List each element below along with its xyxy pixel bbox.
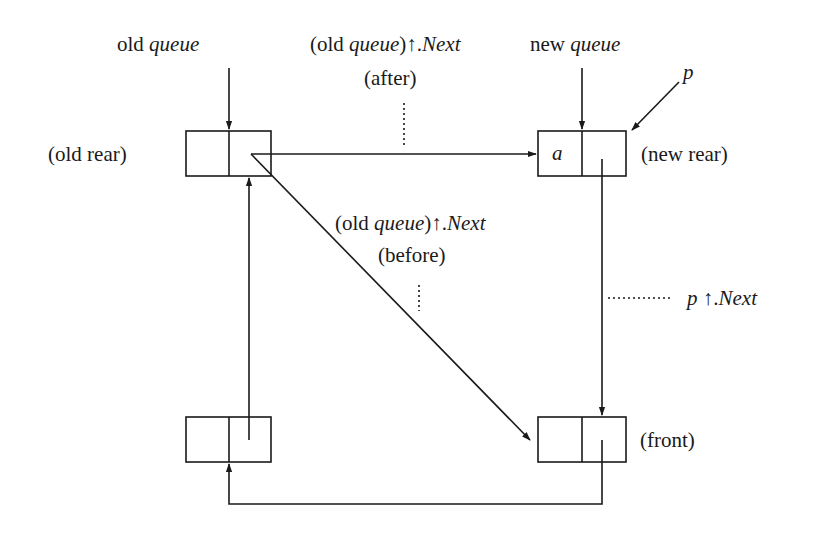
old-queue-label: old queue [117, 32, 199, 56]
node-bottom-left [186, 417, 271, 462]
before-var: queue [374, 211, 424, 235]
old-queue-var: queue [149, 32, 199, 56]
p-next-field: Next [719, 286, 757, 310]
new-queue-prefix: new [530, 32, 565, 56]
annotation-p-next: p ↑.Next [687, 286, 757, 310]
edge-front-to-bottom-left [229, 440, 602, 504]
annotation-after-line1: (old queue)↑.Next [310, 32, 460, 56]
after-arrow: ↑. [406, 32, 422, 56]
annotation-after-note: (after) [364, 66, 416, 90]
p-pointer-label: p [683, 60, 694, 84]
front-label: (front) [640, 428, 695, 452]
old-rear-label: (old rear) [48, 142, 127, 166]
before-arrow: ↑. [431, 211, 447, 235]
after-var: queue [349, 32, 399, 56]
annotation-before-line1: (old queue)↑.Next [335, 211, 485, 235]
edge-old-rear-to-front [251, 154, 530, 440]
p-pointer-arrow [632, 82, 679, 130]
p-next-arrow: ↑. [698, 286, 719, 310]
annotation-before-note: (before) [378, 243, 446, 267]
new-queue-var: queue [570, 32, 620, 56]
node-front [538, 417, 626, 462]
after-open: (old [310, 32, 349, 56]
before-field: Next [447, 211, 485, 235]
after-field: Next [422, 32, 460, 56]
new-rear-value: a [552, 141, 572, 165]
old-queue-prefix: old [117, 32, 144, 56]
new-queue-label: new queue [530, 32, 620, 56]
new-rear-label: (new rear) [641, 142, 728, 166]
before-open: (old [335, 211, 374, 235]
p-next-var: p [687, 286, 698, 310]
